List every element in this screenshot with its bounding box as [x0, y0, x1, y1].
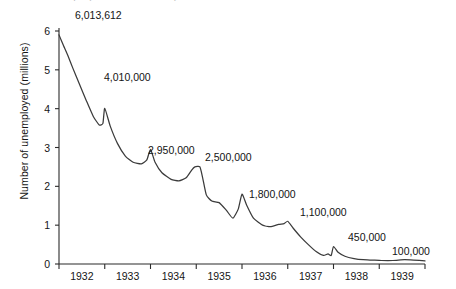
y-tick-label: 5 — [32, 65, 50, 75]
annotation-2500000: 2,500,000 — [205, 152, 252, 163]
line-chart-canvas — [0, 0, 456, 289]
unemployment-line — [59, 35, 425, 261]
y-tick-marks — [55, 31, 59, 264]
x-tick-label-1939: 1939 — [380, 271, 424, 282]
annotation-1100000: 1,100,000 — [300, 207, 347, 218]
x-tick-label-1935: 1935 — [197, 271, 241, 282]
x-tick-label-1933: 1933 — [106, 271, 150, 282]
x-tick-marks — [59, 264, 425, 269]
x-tick-label-1934: 1934 — [151, 271, 195, 282]
x-tick-label-1937: 1937 — [289, 271, 333, 282]
y-tick-label: 6 — [32, 26, 50, 36]
x-tick-label-1932: 1932 — [60, 271, 104, 282]
annotation-2950000: 2,950,000 — [148, 145, 195, 156]
y-tick-label: 2 — [32, 181, 50, 191]
annotation-1800000: 1,800,000 — [249, 189, 296, 200]
chart-figure: Unemployment in Germany 1932-1939 Number… — [0, 0, 456, 289]
y-tick-label: 4 — [32, 104, 50, 114]
y-tick-label: 0 — [32, 259, 50, 269]
annotation-4010000: 4,010,000 — [104, 72, 151, 83]
annotation-6013612: 6,013,612 — [75, 10, 122, 21]
x-tick-label-1936: 1936 — [243, 271, 287, 282]
y-axis-title: Number of unemployed (millions) — [18, 16, 30, 226]
y-tick-label: 3 — [32, 143, 50, 153]
y-tick-label: 1 — [32, 220, 50, 230]
annotation-100000: 100,000 — [392, 246, 430, 257]
x-tick-label-1938: 1938 — [334, 271, 378, 282]
annotation-450000: 450,000 — [348, 232, 386, 243]
